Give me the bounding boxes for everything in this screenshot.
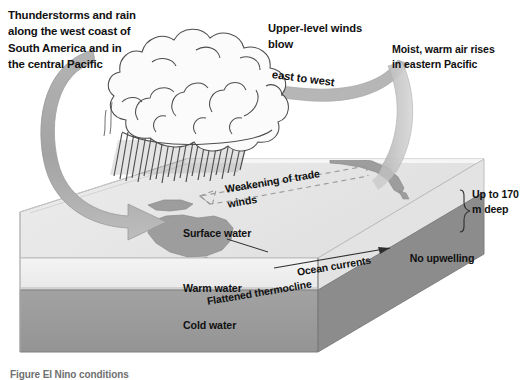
figure-caption: Figure El Nino conditions — [10, 369, 310, 380]
cold-layer-front-face — [20, 290, 318, 352]
surface-water-label: Surface water — [183, 226, 253, 241]
upper-level-winds-label: Upper-level winds blow — [268, 21, 386, 53]
cold-water-label: Cold water — [183, 318, 249, 333]
warm-water-label: Warm water — [183, 281, 249, 296]
figure-canvas: Thunderstorms and rain along the west co… — [0, 0, 522, 380]
no-upwelling-label: No upwelling — [404, 251, 480, 266]
depth-label: Up to 170 m deep — [472, 187, 520, 217]
moist-warm-air-label: Moist, warm air rises in eastern Pacific — [392, 42, 500, 72]
thunderstorms-label: Thunderstorms and rain along the west co… — [8, 7, 136, 72]
